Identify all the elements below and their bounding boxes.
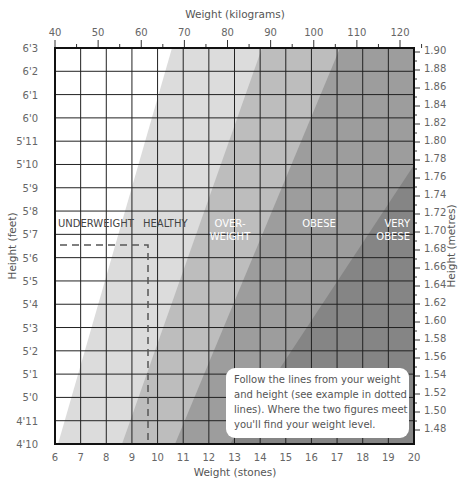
instruction-note: Follow the lines from your weight and he… bbox=[226, 368, 409, 438]
svg-text:6: 6 bbox=[52, 452, 58, 463]
top-axis-title: Weight (kilograms) bbox=[185, 8, 285, 20]
svg-text:5'2: 5'2 bbox=[23, 346, 38, 357]
svg-text:1.72: 1.72 bbox=[424, 207, 446, 218]
svg-text:8: 8 bbox=[103, 452, 109, 463]
svg-text:10: 10 bbox=[151, 452, 164, 463]
svg-text:1.64: 1.64 bbox=[424, 279, 446, 290]
svg-text:14: 14 bbox=[254, 452, 267, 463]
svg-text:1.84: 1.84 bbox=[424, 99, 446, 110]
svg-text:6'2: 6'2 bbox=[23, 66, 38, 77]
svg-text:1.76: 1.76 bbox=[424, 171, 446, 182]
svg-text:1.90: 1.90 bbox=[424, 45, 446, 56]
svg-text:1.60: 1.60 bbox=[424, 315, 446, 326]
svg-text:6'0: 6'0 bbox=[23, 113, 38, 124]
svg-text:5'0: 5'0 bbox=[23, 392, 38, 403]
svg-text:12: 12 bbox=[202, 452, 215, 463]
svg-text:4'10: 4'10 bbox=[16, 439, 38, 450]
label-underweight: UNDERWEIGHT bbox=[58, 218, 135, 229]
svg-text:1.50: 1.50 bbox=[424, 405, 446, 416]
svg-text:9: 9 bbox=[129, 452, 135, 463]
svg-text:100: 100 bbox=[304, 27, 323, 38]
svg-text:1.52: 1.52 bbox=[424, 387, 446, 398]
label-very-obese-2: OBESE bbox=[376, 231, 410, 242]
label-obese: OBESE bbox=[302, 218, 336, 229]
svg-text:120: 120 bbox=[390, 27, 409, 38]
svg-text:7: 7 bbox=[77, 452, 83, 463]
svg-text:1.54: 1.54 bbox=[424, 369, 446, 380]
svg-text:5'6: 5'6 bbox=[23, 253, 38, 264]
left-axis-title: Height (feet) bbox=[6, 213, 18, 280]
svg-text:90: 90 bbox=[264, 27, 277, 38]
label-very-obese-1: VERY bbox=[384, 218, 410, 229]
svg-text:1.48: 1.48 bbox=[424, 423, 446, 434]
svg-text:13: 13 bbox=[228, 452, 241, 463]
svg-text:1.74: 1.74 bbox=[424, 189, 446, 200]
svg-text:5'3: 5'3 bbox=[23, 323, 38, 334]
svg-text:5'5: 5'5 bbox=[23, 276, 38, 287]
svg-text:60: 60 bbox=[135, 27, 148, 38]
svg-text:80: 80 bbox=[221, 27, 234, 38]
svg-text:17: 17 bbox=[331, 452, 344, 463]
svg-text:5'11: 5'11 bbox=[16, 136, 38, 147]
svg-text:1.62: 1.62 bbox=[424, 297, 446, 308]
svg-text:11: 11 bbox=[177, 452, 190, 463]
svg-text:6'3: 6'3 bbox=[23, 43, 38, 54]
svg-text:1.66: 1.66 bbox=[424, 261, 446, 272]
svg-text:1.80: 1.80 bbox=[424, 135, 446, 146]
label-overweight-2: WEIGHT bbox=[210, 231, 251, 242]
svg-text:110: 110 bbox=[347, 27, 366, 38]
svg-text:4'11: 4'11 bbox=[16, 416, 38, 427]
svg-text:1.58: 1.58 bbox=[424, 333, 446, 344]
svg-text:15: 15 bbox=[279, 452, 292, 463]
svg-text:5'4: 5'4 bbox=[23, 299, 38, 310]
svg-text:5'9: 5'9 bbox=[23, 183, 38, 194]
svg-text:40: 40 bbox=[49, 27, 62, 38]
svg-text:5'7: 5'7 bbox=[23, 229, 38, 240]
label-healthy: HEALTHY bbox=[143, 218, 189, 229]
svg-text:1.78: 1.78 bbox=[424, 153, 446, 164]
svg-text:1.68: 1.68 bbox=[424, 243, 446, 254]
svg-text:5'10: 5'10 bbox=[16, 159, 38, 170]
svg-text:5'1: 5'1 bbox=[23, 369, 38, 380]
svg-text:1.82: 1.82 bbox=[424, 117, 446, 128]
svg-text:50: 50 bbox=[92, 27, 105, 38]
bottom-axis-title: Weight (stones) bbox=[194, 466, 277, 478]
svg-text:70: 70 bbox=[178, 27, 191, 38]
svg-text:1.88: 1.88 bbox=[424, 63, 446, 74]
label-overweight-1: OVER- bbox=[214, 218, 245, 229]
svg-text:18: 18 bbox=[356, 452, 369, 463]
svg-text:19: 19 bbox=[382, 452, 395, 463]
svg-text:1.70: 1.70 bbox=[424, 225, 446, 236]
svg-text:1.56: 1.56 bbox=[424, 351, 446, 362]
svg-text:6'1: 6'1 bbox=[23, 90, 38, 101]
svg-text:1.86: 1.86 bbox=[424, 81, 446, 92]
right-axis-title: Height (metres) bbox=[445, 204, 457, 287]
svg-text:5'8: 5'8 bbox=[23, 206, 38, 217]
svg-text:20: 20 bbox=[408, 452, 421, 463]
svg-text:16: 16 bbox=[305, 452, 318, 463]
